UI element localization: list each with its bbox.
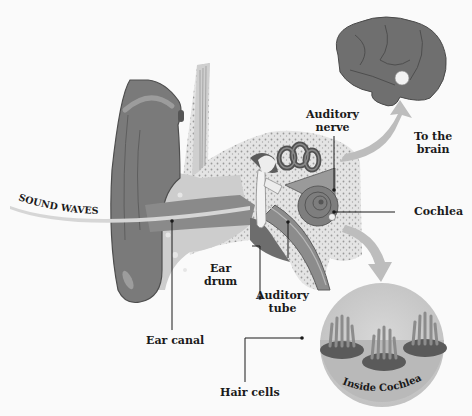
- auditory-nerve-label-line2: nerve: [306, 121, 359, 134]
- ear-canal-label: Ear canal: [146, 334, 204, 347]
- brain: [336, 17, 446, 106]
- auditory-tube-label-line2: tube: [256, 302, 309, 315]
- cochlea: [298, 186, 338, 226]
- ear-illustration: SOUND WAVES Inside Cochlea: [0, 0, 472, 416]
- ear-drum-label: Ear drum: [204, 262, 237, 288]
- auditory-tube-label: Auditory tube: [256, 289, 309, 315]
- hair-cells-label: Hair cells: [220, 386, 280, 399]
- auditory-tube-label-line1: Auditory: [256, 289, 309, 302]
- to-the-brain-label: To the brain: [414, 130, 452, 156]
- ear-drum-label-line2: drum: [204, 275, 237, 288]
- auditory-nerve-label-line1: Auditory: [306, 108, 359, 121]
- ear-diagram: SOUND WAVES Inside Cochlea Auditory nerv…: [0, 0, 472, 416]
- ear-drum-label-line1: Ear: [204, 262, 237, 275]
- cochlea-label: Cochlea: [414, 205, 463, 218]
- auditory-nerve-label: Auditory nerve: [306, 108, 359, 134]
- to-the-brain-label-line2: brain: [414, 143, 452, 156]
- to-the-brain-label-line1: To the: [414, 130, 452, 143]
